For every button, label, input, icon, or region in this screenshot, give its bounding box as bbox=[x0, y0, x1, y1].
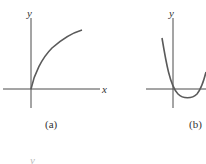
panel-a: y x (a) bbox=[3, 7, 107, 131]
bottom-fragment-label: y bbox=[29, 154, 35, 164]
panel-b: y (b) bbox=[146, 7, 206, 131]
panel-a-curve bbox=[31, 30, 82, 89]
panel-b-caption: (b) bbox=[189, 118, 202, 131]
panel-b-y-label: y bbox=[168, 7, 174, 19]
panel-a-x-label: x bbox=[101, 83, 107, 95]
panel-a-caption: (a) bbox=[45, 118, 58, 131]
figure-canvas: y x (a) y (b) y bbox=[0, 0, 206, 164]
panel-a-y-label: y bbox=[26, 7, 32, 19]
